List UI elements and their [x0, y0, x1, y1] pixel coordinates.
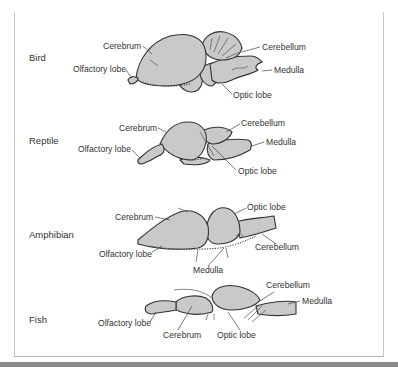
svg-text:Medulla: Medulla: [266, 137, 296, 147]
bird-brain: [128, 32, 262, 92]
svg-text:Cerebellum: Cerebellum: [255, 242, 299, 252]
svg-text:Medulla: Medulla: [274, 65, 304, 75]
svg-text:Olfactory lobe: Olfactory lobe: [98, 318, 151, 328]
svg-text:Optic lobe: Optic lobe: [238, 166, 277, 176]
fish-labels: Cerebellum Medulla Olfactory lobe Cerebr…: [98, 280, 332, 340]
svg-text:Cerebrum: Cerebrum: [163, 330, 201, 340]
svg-text:Cerebrum: Cerebrum: [119, 123, 157, 133]
fish-brain: [145, 285, 296, 322]
svg-text:Cerebellum: Cerebellum: [241, 118, 285, 128]
svg-text:Cerebrum: Cerebrum: [103, 41, 141, 51]
svg-text:Cerebellum: Cerebellum: [262, 42, 306, 52]
svg-text:Olfactory lobe: Olfactory lobe: [73, 64, 126, 74]
svg-text:Cerebellum: Cerebellum: [266, 280, 310, 290]
svg-text:Medulla: Medulla: [302, 296, 332, 306]
amphibian-brain: [138, 208, 276, 262]
svg-text:Olfactory lobe: Olfactory lobe: [78, 144, 131, 154]
svg-text:Optic lobe: Optic lobe: [247, 202, 286, 212]
svg-text:Cerebrum: Cerebrum: [115, 212, 153, 222]
svg-text:Olfactory lobe: Olfactory lobe: [99, 249, 152, 259]
svg-text:Optic lobe: Optic lobe: [233, 90, 272, 100]
svg-text:Medulla: Medulla: [193, 265, 223, 275]
svg-text:Optic lobe: Optic lobe: [217, 330, 256, 340]
